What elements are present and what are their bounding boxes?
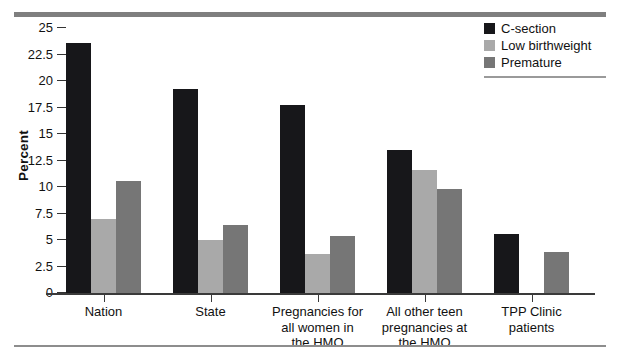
- y-axis-tick-7-5: 7.5: [4, 207, 66, 220]
- y-axis-tick-mark: [57, 27, 66, 28]
- bar-premature: [223, 225, 248, 293]
- bar-premature: [437, 189, 462, 293]
- x-axis-label-line: TPP Clinic: [472, 304, 592, 320]
- y-axis-tick-mark: [57, 266, 66, 267]
- y-axis-tick-12-5: 12.5: [4, 154, 66, 167]
- x-axis-tick: [425, 294, 427, 302]
- bar-low-birthweight: [412, 170, 437, 293]
- y-axis-tick-label: 25: [39, 20, 53, 35]
- plot-area: [66, 28, 588, 293]
- bar-group: [280, 28, 355, 293]
- y-axis-tick-label: 12.5: [28, 153, 53, 168]
- x-axis-label-line: the HMO: [258, 335, 378, 351]
- x-axis-tick: [104, 294, 106, 302]
- x-axis-label-3: Pregnancies forall women inthe HMO: [258, 304, 378, 351]
- bottom-divider-rule: [14, 345, 606, 347]
- x-axis-tick: [318, 294, 320, 302]
- y-axis-tick-label: 17.5: [28, 100, 53, 115]
- x-axis-line: [46, 293, 595, 295]
- y-axis-tick-15: 15: [4, 127, 66, 140]
- top-divider-rule: [14, 12, 606, 17]
- y-axis-tick-label: 10: [39, 179, 53, 194]
- bar-c-section: [280, 105, 305, 293]
- y-axis-tick-mark: [57, 213, 66, 214]
- y-axis-tick-label: 7.5: [35, 206, 53, 221]
- bar-low-birthweight: [91, 219, 116, 293]
- bar-c-section: [387, 150, 412, 293]
- bar-low-birthweight: [198, 240, 223, 293]
- y-axis-tick-mark: [57, 239, 66, 240]
- bar-group: [66, 28, 141, 293]
- x-axis-label-line: pregnancies at: [365, 320, 485, 336]
- bar-premature: [544, 252, 569, 293]
- x-axis-label-5: TPP Clinicpatients: [472, 304, 592, 335]
- x-axis-label-line: State: [151, 304, 271, 320]
- y-axis-tick-label: 22.5: [28, 47, 53, 62]
- x-axis-label-line: patients: [472, 320, 592, 336]
- y-axis-tick-20: 20: [4, 74, 66, 87]
- y-axis-tick-17-5: 17.5: [4, 101, 66, 114]
- x-axis-label-4: All other teenpregnancies atthe HMO: [365, 304, 485, 351]
- bar-c-section: [494, 234, 519, 293]
- y-axis-tick-5: 5: [4, 233, 66, 246]
- y-axis-tick-25: 25: [4, 21, 66, 34]
- x-axis-label-line: Pregnancies for: [258, 304, 378, 320]
- y-axis-tick-mark: [57, 107, 66, 108]
- y-axis-tick-mark: [57, 133, 66, 134]
- bar-group: [173, 28, 248, 293]
- x-axis-label-2: State: [151, 304, 271, 320]
- x-axis-label-line: All other teen: [365, 304, 485, 320]
- x-axis-label-line: all women in: [258, 320, 378, 336]
- y-axis-tick-22-5: 22.5: [4, 48, 66, 61]
- x-axis-label-line: the HMO: [365, 335, 485, 351]
- y-axis-tick-10: 10: [4, 180, 66, 193]
- bar-group: [387, 28, 462, 293]
- y-axis-tick-mark: [57, 80, 66, 81]
- bar-low-birthweight: [305, 254, 330, 293]
- x-axis-label-line: Nation: [44, 304, 164, 320]
- y-axis-tick-2-5: 2.5: [4, 260, 66, 273]
- y-axis-tick-mark: [57, 54, 66, 55]
- bar-premature: [116, 181, 141, 293]
- y-axis-tick-mark: [57, 186, 66, 187]
- bar-premature: [330, 236, 355, 293]
- y-axis-tick-label: 2.5: [35, 259, 53, 274]
- bar-group: [494, 28, 569, 293]
- x-axis-tick: [211, 294, 213, 302]
- bar-c-section: [173, 89, 198, 293]
- y-axis-tick-mark: [57, 160, 66, 161]
- y-axis-tick-label: 20: [39, 73, 53, 88]
- y-axis-tick-label: 15: [39, 126, 53, 141]
- bar-c-section: [66, 43, 91, 293]
- x-axis-tick: [532, 294, 534, 302]
- x-axis-label-1: Nation: [44, 304, 164, 320]
- y-axis-tick-label: 5: [46, 232, 53, 247]
